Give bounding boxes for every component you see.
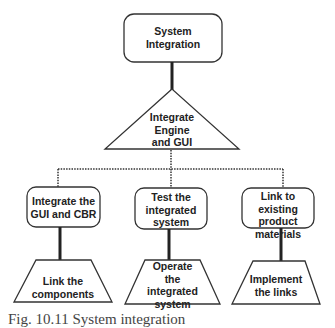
root-label: System Integration [124, 25, 222, 50]
dotted-connectors [58, 150, 283, 189]
subtask-label-2: Operate the integrated system [125, 260, 220, 310]
subtask-label-1: Link the components [14, 275, 112, 300]
subtask-label-3: Implement the links [232, 273, 320, 298]
engine-label: Integrate Engine and GUI [122, 111, 222, 149]
figure-caption: Fig. 10.11 System integration [8, 311, 185, 328]
task-label-1: Integrate the GUI and CBR [27, 195, 100, 220]
task-label-2: Test the integrated system [135, 191, 207, 229]
task-label-3: Link to existing product materials [240, 190, 316, 240]
